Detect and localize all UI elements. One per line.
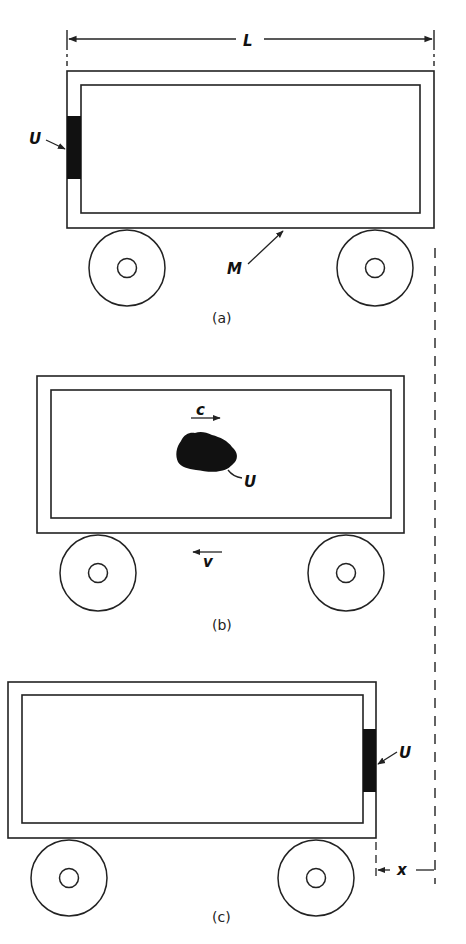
einstein-box-diagram: L U M (a) U c — [0, 0, 466, 944]
box-inner-wall — [81, 85, 420, 213]
mass-block-u — [363, 729, 376, 792]
mass-m-label: M — [227, 260, 242, 278]
box-inner-wall — [22, 695, 363, 823]
caption-c: (c) — [212, 909, 231, 925]
displacement-x-label: x — [396, 861, 408, 879]
blob-u-label: U — [244, 473, 256, 491]
wheel-right — [278, 840, 354, 916]
panel-b: U c v (b) — [37, 376, 404, 633]
wheel-left — [31, 840, 107, 916]
dimension-l-label: L — [243, 32, 253, 50]
energy-blob-u — [176, 432, 237, 472]
wheel-right — [308, 535, 384, 611]
block-u-label: U — [399, 744, 411, 762]
panel-c: U x (c) — [8, 682, 434, 925]
box-velocity-v-label: v — [203, 553, 214, 571]
wheel-left — [60, 535, 136, 611]
dimension-l: L — [67, 30, 434, 66]
caption-a: (a) — [212, 310, 232, 326]
caption-b: (b) — [212, 617, 232, 633]
box-outer-wall — [67, 71, 434, 228]
box-outer-wall — [8, 682, 376, 838]
wheel-left — [89, 230, 165, 306]
dimension-x: x — [376, 842, 434, 880]
photon-velocity-c-label: c — [196, 401, 205, 419]
panel-a: U M (a) — [29, 71, 434, 326]
wheel-right — [337, 230, 413, 306]
mass-block-u — [67, 116, 81, 179]
block-u-label: U — [29, 130, 41, 148]
